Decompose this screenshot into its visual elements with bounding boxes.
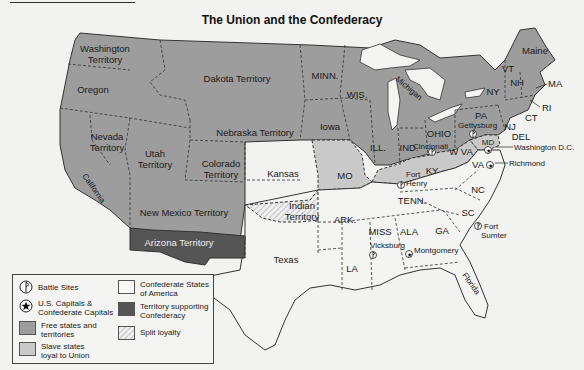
- label-gettysburg: Gettysburg: [458, 121, 497, 130]
- label-ark: ARK.: [334, 214, 356, 225]
- capital-icon-washington-dc: ★: [485, 147, 492, 155]
- label-dakota: Dakota Territory: [204, 73, 271, 84]
- label-oregon: Oregon: [77, 84, 109, 95]
- label-washington-2: Territory: [88, 54, 123, 65]
- slave-union-swatch: [19, 342, 36, 356]
- label-md: MD: [482, 138, 495, 147]
- svg-text:★: ★: [486, 148, 491, 154]
- label-fort-sumter-2: Sumter: [481, 231, 507, 240]
- label-nh: NH: [510, 77, 524, 88]
- label-del: DEL: [512, 131, 530, 142]
- label-la: LA: [346, 263, 358, 274]
- label-colorado: Colorado: [202, 158, 241, 169]
- legend-label: Free states andterritories: [41, 321, 97, 339]
- legend-slave-union: Slave statesloyal to Union: [19, 342, 89, 360]
- label-richmond: Richmond: [509, 159, 545, 168]
- legend-capitals: U.S. Capitals &Confederate Capitals: [19, 299, 113, 317]
- label-minn: MINN.: [312, 70, 339, 81]
- battle-site-icon: [19, 280, 33, 294]
- label-ct: CT: [525, 112, 538, 123]
- label-ala: ALA: [400, 226, 419, 237]
- label-arizona: Arizona Territory: [145, 237, 214, 248]
- label-ill: ILL.: [370, 142, 386, 153]
- label-colorado-2: Territory: [204, 169, 239, 180]
- label-wis: WIS.: [347, 89, 368, 100]
- label-pa: PA: [475, 110, 488, 121]
- label-nc: NC: [471, 184, 485, 195]
- legend-confederate: Confederate Statesof America: [118, 280, 209, 298]
- capital-icon-richmond: ★: [487, 162, 494, 170]
- label-cincinnati: Cincinnati: [413, 142, 448, 151]
- label-nebraska: Nebraska Territory: [216, 127, 294, 138]
- label-new-mexico: New Mexico Territory: [140, 207, 229, 218]
- legend-split: Split loyalty: [118, 326, 180, 340]
- label-vicksburg: Vicksburg: [370, 241, 405, 250]
- battle-icon-vicksburg: [370, 252, 377, 259]
- label-maine: Maine: [522, 45, 548, 56]
- legend-label: Slave statesloyal to Union: [41, 342, 89, 360]
- label-iowa: Iowa: [320, 121, 341, 132]
- label-ky: KY: [426, 165, 439, 176]
- legend-label: Battle Sites: [38, 280, 78, 292]
- label-ohio: OHIO: [427, 128, 451, 139]
- label-fort-henry-2: Henry: [406, 179, 427, 188]
- battle-icon-fort-henry: [398, 182, 405, 189]
- label-utah-2: Territory: [138, 159, 173, 170]
- label-indian-2: Territory: [285, 211, 320, 222]
- label-nevada: Nevada: [91, 131, 124, 142]
- label-washington-dc: Washington D.C.: [514, 143, 574, 152]
- label-ny: NY: [486, 86, 500, 97]
- legend-label: Split loyalty: [140, 326, 180, 337]
- territory-confederacy-swatch: [118, 302, 135, 316]
- capital-icon-montgomery: ★: [406, 251, 413, 259]
- label-ga: GA: [435, 225, 449, 236]
- label-sc: SC: [461, 207, 474, 218]
- legend-label: Confederate Statesof America: [140, 280, 209, 298]
- svg-text:★: ★: [488, 163, 493, 169]
- label-montgomery: Montgomery: [414, 246, 458, 255]
- label-texas: Texas: [274, 254, 299, 265]
- label-ma: MA: [548, 78, 563, 89]
- battle-icon-gettysburg: [470, 131, 477, 138]
- legend-free: Free states andterritories: [19, 321, 97, 339]
- label-indian: Indian: [289, 200, 315, 211]
- label-washington: Washington: [80, 43, 130, 54]
- battle-icon-fort-sumter: [475, 223, 482, 230]
- label-miss: MISS: [368, 226, 391, 237]
- label-kansas: Kansas: [267, 168, 299, 179]
- split-swatch: [118, 326, 135, 340]
- label-fort-henry: Fort: [406, 170, 421, 179]
- label-utah: Utah: [145, 148, 165, 159]
- label-nevada-2: Territory: [90, 142, 125, 153]
- map-legend: Battle Sites U.S. Capitals &Confederate …: [12, 274, 214, 364]
- label-va: VA: [472, 159, 485, 170]
- confederate-swatch: [118, 280, 135, 294]
- label-wva: W VA: [449, 146, 473, 157]
- free-swatch: [19, 321, 36, 335]
- legend-label: U.S. Capitals &Confederate Capitals: [38, 299, 113, 317]
- legend-label: Territory supportingConfederacy: [140, 302, 208, 320]
- label-ri: RI: [542, 102, 552, 113]
- capital-star-icon: [19, 299, 33, 313]
- label-mo: MO: [337, 170, 352, 181]
- label-tenn: TENN.: [398, 195, 427, 206]
- label-fort-sumter: Fort: [484, 222, 499, 231]
- legend-battle-sites: Battle Sites: [19, 280, 78, 294]
- label-vt: VT: [502, 63, 514, 74]
- svg-text:★: ★: [407, 252, 412, 258]
- legend-territory-confederacy: Territory supportingConfederacy: [118, 302, 208, 320]
